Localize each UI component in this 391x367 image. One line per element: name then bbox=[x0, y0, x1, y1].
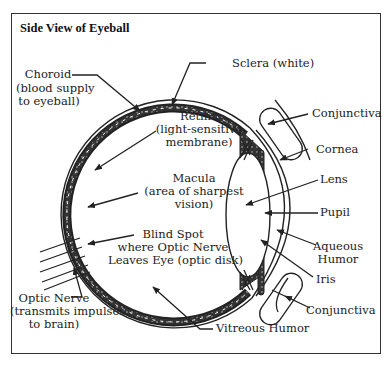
label-optic-nerve: Optic Nerve (transmits impulses to brain… bbox=[10, 292, 98, 331]
label-sclera: Sclera (white) bbox=[232, 57, 314, 70]
label-pupil: Pupil bbox=[320, 206, 350, 219]
label-conjunctiva-top: Conjunctiva bbox=[312, 107, 382, 120]
label-retina: Retina (light-sensitive membrane) bbox=[144, 110, 254, 149]
label-cornea: Cornea bbox=[316, 143, 358, 156]
label-choroid: Choroid bbox=[22, 68, 74, 81]
label-blind-spot: Blind Spot where Optic Nerve Leaves Eye … bbox=[108, 228, 238, 267]
label-vitreous-humor: Vitreous Humor bbox=[216, 322, 309, 335]
label-choroid-desc: (blood supply to eyeball) bbox=[16, 82, 82, 108]
label-macula: Macula (area of sharpest vision) bbox=[134, 172, 254, 211]
label-aqueous-humor: Aqueous Humor bbox=[313, 240, 363, 266]
label-conjunctiva-bottom: Conjunctiva bbox=[306, 304, 376, 317]
label-iris: Iris bbox=[316, 273, 336, 286]
label-lens: Lens bbox=[320, 173, 348, 186]
